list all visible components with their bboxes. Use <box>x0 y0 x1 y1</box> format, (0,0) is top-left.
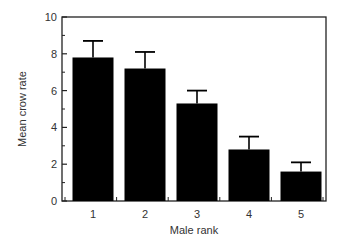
bars <box>73 41 322 201</box>
y-tick-label: 4 <box>51 121 57 133</box>
bar <box>73 57 114 201</box>
y-tick-label: 6 <box>51 85 57 97</box>
bar-group <box>73 41 114 201</box>
x-tick-label: 5 <box>298 208 304 220</box>
x-tick-label: 3 <box>194 208 200 220</box>
bar <box>281 172 322 201</box>
y-tick-label: 0 <box>51 195 57 207</box>
x-tick-label: 4 <box>246 208 252 220</box>
bar-group <box>281 162 322 201</box>
bar-chart: 0246810 12345 Male rank Mean crow rate <box>0 0 342 245</box>
y-axis-title: Mean crow rate <box>16 71 28 147</box>
x-tick-label: 2 <box>142 208 148 220</box>
bar <box>177 103 218 201</box>
y-tick-label: 10 <box>45 11 57 23</box>
x-axis-title: Male rank <box>170 224 219 236</box>
y-tick-label: 8 <box>51 48 57 60</box>
bar <box>229 149 270 201</box>
bar-group <box>229 137 270 201</box>
y-tick-label: 2 <box>51 158 57 170</box>
x-tick-label: 1 <box>90 208 96 220</box>
y-axis: 0246810 <box>45 11 67 207</box>
bar <box>125 69 166 201</box>
bar-group <box>125 52 166 201</box>
bar-group <box>177 91 218 201</box>
